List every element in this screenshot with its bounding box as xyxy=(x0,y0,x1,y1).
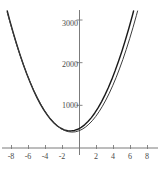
x-tick-label: -8 xyxy=(3,153,19,161)
chart-figure: 300020001000 -8-6-4-22468 xyxy=(0,0,160,170)
x-tick-label: -6 xyxy=(20,153,36,161)
x-tick-label: 6 xyxy=(122,153,138,161)
y-tick-label: 2000 xyxy=(0,61,78,69)
x-tick-label: 8 xyxy=(139,153,155,161)
x-tick-label: 2 xyxy=(88,153,104,161)
data-series-group xyxy=(7,11,137,132)
x-tick-label: -4 xyxy=(37,153,53,161)
y-tick-label: 3000 xyxy=(0,20,78,28)
x-tick-label: -2 xyxy=(54,153,70,161)
curve-curve-b xyxy=(7,11,137,132)
y-tick-label: 1000 xyxy=(0,102,78,110)
x-tick-label: 4 xyxy=(105,153,121,161)
